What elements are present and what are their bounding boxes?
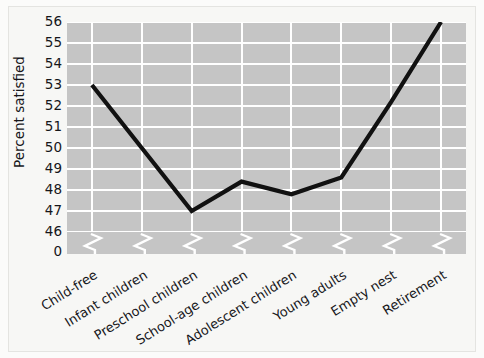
figure: 56555453525150494847460 Percent satisfie… xyxy=(0,0,484,358)
x-axis-labels: Child-freeInfant childrenPreschool child… xyxy=(0,0,484,358)
